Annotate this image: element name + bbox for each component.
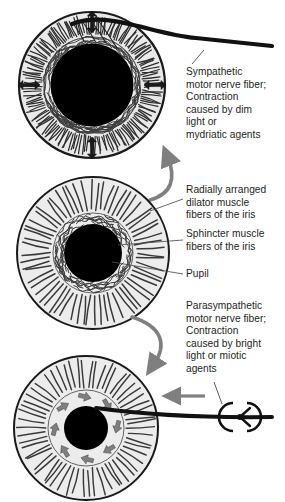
pupil-neutral xyxy=(64,224,122,282)
neutral-eye-diagram xyxy=(17,177,169,329)
label-dilator-muscle: Radially arranged dilator muscle fibers … xyxy=(186,184,285,222)
label-pupil: Pupil xyxy=(186,268,285,281)
label-sympathetic: Sympathetic motor nerve fiber; Contracti… xyxy=(186,66,285,142)
pupil-dilated xyxy=(51,44,134,127)
label-parasympathetic: Parasympathetic motor nerve fiber; Contr… xyxy=(186,300,285,376)
label-sphincter-muscle: Sphincter muscle fibers of the iris xyxy=(186,228,285,253)
pupil-constricted xyxy=(64,406,108,450)
